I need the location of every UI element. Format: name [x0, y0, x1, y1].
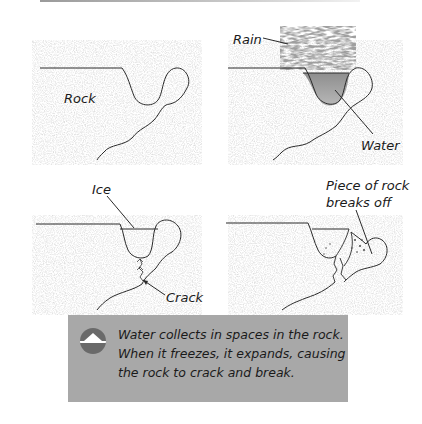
- panel-rain-water: Rain Water: [228, 26, 403, 165]
- triangle-glyph: [84, 333, 102, 341]
- label-piece-line-1: Piece of rock: [326, 178, 410, 193]
- rain-icon: [280, 26, 356, 70]
- caption-line-1: Water collects in spaces in the rock.: [118, 325, 343, 344]
- label-crack: Crack: [166, 290, 204, 305]
- panel-piece-breaks: Piece of rock breaks off: [226, 178, 410, 315]
- caption-box: Water collects in spaces in the rock. Wh…: [68, 315, 348, 402]
- label-water: Water: [361, 138, 401, 153]
- panel-rock: Rock: [32, 40, 202, 165]
- rock-texture: [32, 40, 202, 165]
- label-rock: Rock: [64, 91, 96, 106]
- caption-line-3: the rock to crack and break.: [118, 363, 343, 382]
- caption-line-2: When it freezes, it expands, causing: [118, 344, 343, 363]
- caption-text: Water collects in spaces in the rock. Wh…: [118, 325, 343, 382]
- panel-ice-crack: Ice Crack: [32, 182, 204, 315]
- divider-glyph: [80, 341, 106, 343]
- label-rain: Rain: [233, 32, 262, 47]
- label-piece-line-2: breaks off: [326, 195, 393, 210]
- label-ice: Ice: [92, 182, 111, 197]
- triangle-up-circle-icon: [80, 328, 106, 354]
